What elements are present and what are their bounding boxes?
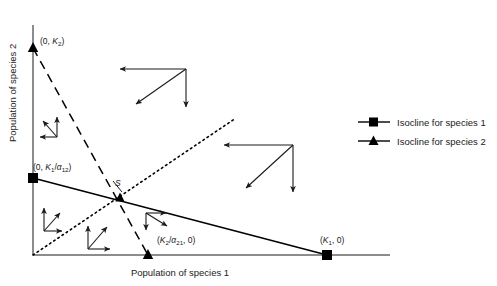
label-y-intercept-species1: (0, K1/α12) <box>33 162 72 173</box>
vector-arrow-down-left <box>136 69 186 104</box>
legend-item-isocline-species-1[interactable]: Isocline for species 1 <box>358 117 486 128</box>
triangle-marker-x-intercept <box>143 249 153 259</box>
square-marker-y-intercept <box>28 173 38 183</box>
phase-plane-svg: Population of species 2 Population of sp… <box>0 0 497 286</box>
equilibrium-marker <box>116 193 125 202</box>
label-y-intercept-species2: (0, K2) <box>40 36 64 47</box>
vector-cluster-upper-left <box>40 117 57 137</box>
vector-arrow-up-left <box>43 121 57 137</box>
triangle-marker-y-intercept <box>28 42 38 52</box>
legend: Isocline for species 1 Isocline for spec… <box>358 117 486 147</box>
vector-cluster-upper-middle <box>120 69 186 107</box>
legend-label-species-1: Isocline for species 1 <box>397 117 486 128</box>
legend-item-isocline-species-2[interactable]: Isocline for species 2 <box>358 136 486 148</box>
vector-arrow-down-right <box>146 213 167 226</box>
legend-label-species-2: Isocline for species 2 <box>397 136 486 147</box>
vector-arrow-up-right <box>44 213 60 231</box>
label-x-intercept-species1: (K1, 0) <box>320 235 344 246</box>
y-axis-title: Population of species 2 <box>7 44 18 142</box>
vector-cluster-near-equilibrium <box>146 213 167 230</box>
vector-cluster-middle-right <box>224 145 293 192</box>
x-axis-title: Population of species 1 <box>131 267 229 278</box>
vector-cluster-lower-left <box>44 208 62 231</box>
square-marker-x-intercept <box>322 250 332 260</box>
label-x-intercept-species2: (K2/α21, 0) <box>157 235 196 246</box>
vector-cluster-lower-middle <box>88 226 110 249</box>
vector-arrow-down-left <box>246 145 293 188</box>
square-icon <box>369 118 378 127</box>
vector-arrow-up-right <box>88 227 107 249</box>
axis-group <box>33 25 390 255</box>
triangle-icon <box>369 136 379 146</box>
phase-plane-figure: Population of species 2 Population of sp… <box>0 0 497 286</box>
equilibrium-label: S <box>115 178 121 188</box>
